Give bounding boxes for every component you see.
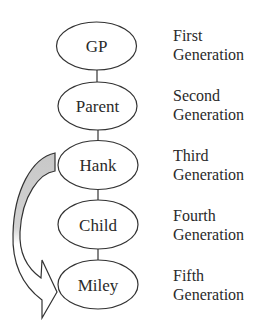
generation-label-third: Third Generation xyxy=(173,146,244,184)
generation-label-fifth: Fifth Generation xyxy=(173,266,244,304)
node-gp: GP xyxy=(57,22,137,70)
generation-label-line2: Generation xyxy=(173,225,244,244)
node-label-gp: GP xyxy=(86,37,108,56)
generation-label-line1: Second xyxy=(173,86,244,105)
curved-arrow-icon xyxy=(13,153,57,318)
generation-label-second: Second Generation xyxy=(173,86,244,124)
generation-label-line2: Generation xyxy=(173,45,244,64)
node-parent: Parent xyxy=(58,82,137,130)
node-child: Child xyxy=(58,200,138,249)
generation-label-line2: Generation xyxy=(173,105,244,124)
node-label-hank: Hank xyxy=(80,156,117,175)
generation-label-fourth: Fourth Generation xyxy=(173,206,244,244)
node-hank: Hank xyxy=(58,141,138,190)
node-label-parent: Parent xyxy=(76,97,120,116)
generation-label-line1: Fourth xyxy=(173,206,244,225)
generation-label-line1: Fifth xyxy=(173,266,244,285)
generation-label-line2: Generation xyxy=(173,165,244,184)
generation-label-line1: Third xyxy=(173,146,244,165)
generation-label-line1: First xyxy=(173,26,244,45)
node-label-miley: Miley xyxy=(78,276,119,295)
generation-label-first: First Generation xyxy=(173,26,244,64)
node-miley: Miley xyxy=(58,260,138,309)
node-label-child: Child xyxy=(79,216,117,235)
generation-label-line2: Generation xyxy=(173,285,244,304)
